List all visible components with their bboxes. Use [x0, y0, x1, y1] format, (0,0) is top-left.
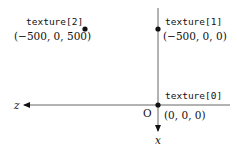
point-texture-0 [155, 102, 160, 107]
x-axis-label: x [155, 134, 161, 146]
z-axis-label: z [13, 99, 20, 111]
origin-label: O [143, 107, 152, 119]
coordinate-diagram: z x O texture[0] (0, 0, 0) texture[1] (−… [0, 0, 237, 149]
texture-0-coords: (0, 0, 0) [164, 109, 206, 121]
point-texture-1 [155, 26, 160, 31]
texture-2-name: texture[2] [26, 16, 83, 27]
texture-0-name: texture[0] [165, 90, 222, 101]
texture-1-name: texture[1] [165, 16, 222, 27]
texture-1-coords: (−500, 0, 0) [163, 30, 227, 42]
texture-2-coords: (−500, 0, 500) [14, 30, 91, 42]
